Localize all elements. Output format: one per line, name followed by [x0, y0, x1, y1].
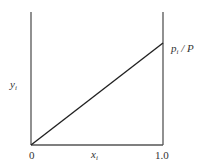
y-axis-label: yi: [9, 78, 17, 92]
diagram-canvas: pi / P yi 0 xi 1.0: [0, 0, 205, 167]
x-axis-label: xi: [90, 148, 98, 162]
x-tick-1: 1.0: [155, 149, 169, 161]
linear-relation-line: [31, 43, 163, 145]
line-label: pi / P: [170, 42, 194, 56]
x-tick-0: 0: [29, 149, 35, 161]
